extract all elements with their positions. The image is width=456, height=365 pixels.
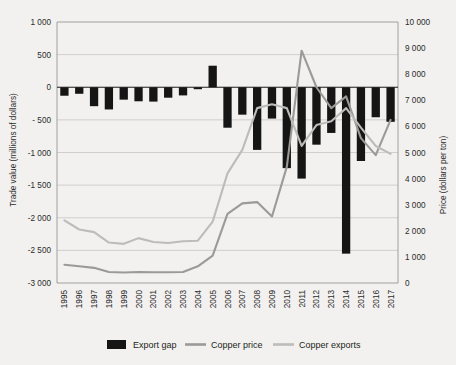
bar [268, 87, 276, 118]
x-tick-label: 2006 [224, 290, 233, 309]
bar [75, 87, 83, 94]
x-tick-label: 2014 [342, 290, 351, 309]
y2-tick-label: 7 000 [405, 96, 426, 105]
y2-tick-label: 9 000 [405, 44, 426, 53]
bar [372, 87, 380, 117]
x-tick-label: 2001 [149, 290, 158, 309]
legend-label: Export gap [133, 340, 177, 350]
y2-tick-label: 2 000 [405, 227, 426, 236]
y2-tick-label: 3 000 [405, 201, 426, 210]
bar [134, 87, 142, 101]
x-tick-label: 2011 [298, 290, 307, 308]
x-tick-label: 2017 [387, 290, 396, 309]
y2-tick-label: 6 000 [405, 122, 426, 131]
x-tick-label: 1999 [120, 290, 129, 309]
bar [386, 87, 394, 122]
bar [149, 87, 157, 101]
x-tick-label: 2016 [372, 290, 381, 309]
y-tick-label: 500 [37, 51, 51, 60]
chart-figure: 1 0005000- 500-1 000-1 500-2 000-2 500-3… [0, 0, 456, 365]
bar [297, 87, 305, 178]
chart-legend: Export gapCopper priceCopper exports [107, 340, 361, 350]
y-tick-label: -3 000 [28, 279, 52, 288]
y-tick-label: -1 000 [28, 149, 52, 158]
x-tick-label: 2009 [268, 290, 277, 309]
y-tick-label: -1 500 [28, 181, 52, 190]
y2-tick-label: 4 000 [405, 175, 426, 184]
x-axis-tick-labels: 1995199619971998199920002001200220032004… [60, 290, 395, 309]
x-tick-label: 2010 [283, 290, 292, 309]
bar [312, 87, 320, 144]
x-tick-label: 2003 [179, 290, 188, 309]
y-tick-label: - 500 [32, 116, 51, 125]
legend-swatch-export-gap [107, 340, 126, 349]
y2-tick-label: 10 000 [405, 18, 430, 27]
x-tick-label: 1998 [105, 290, 114, 309]
y2-tick-label: 8 000 [405, 70, 426, 79]
trade-gap-copper-chart: 1 0005000- 500-1 000-1 500-2 000-2 500-3… [0, 0, 456, 365]
bar [209, 66, 217, 88]
y-tick-label: -2 500 [28, 246, 52, 255]
bar [164, 87, 172, 97]
y2-axis-title: Price (dollars per ton) [439, 136, 448, 215]
bar [223, 87, 231, 127]
legend-label: Copper exports [299, 340, 361, 350]
bar [60, 87, 68, 95]
x-tick-label: 2008 [253, 290, 262, 309]
x-tick-label: 2007 [238, 290, 247, 309]
y2-tick-label: 1 000 [405, 253, 426, 262]
x-tick-label: 2004 [194, 290, 203, 309]
y2-tick-label: 0 [405, 279, 410, 288]
x-tick-label: 2012 [312, 290, 321, 309]
bar [179, 87, 187, 95]
bar [105, 87, 113, 109]
bar [327, 87, 335, 133]
x-tick-label: 1997 [90, 290, 99, 309]
x-tick-label: 2005 [209, 290, 218, 309]
x-tick-label: 2002 [164, 290, 173, 309]
y2-tick-label: 5 000 [405, 149, 426, 158]
y-tick-label: 0 [46, 83, 51, 92]
bar [120, 87, 128, 99]
y-axis-title: Trade value (millions of dollars) [9, 93, 18, 207]
x-tick-label: 1995 [60, 290, 69, 309]
x-tick-label: 2000 [135, 290, 144, 309]
bar [283, 87, 291, 168]
x-tick-label: 2013 [327, 290, 336, 309]
bar [90, 87, 98, 106]
y-tick-label: 1 000 [31, 18, 52, 27]
x-tick-label: 2015 [357, 290, 366, 309]
x-tick-label: 1996 [75, 290, 84, 309]
y-tick-label: -2 000 [28, 214, 52, 223]
bar [238, 87, 246, 114]
legend-label: Copper price [211, 340, 263, 350]
